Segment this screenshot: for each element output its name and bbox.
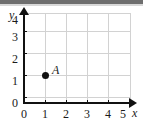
gridline-horizontal [24, 75, 131, 76]
y-axis-tick [23, 97, 27, 98]
plot-area [24, 13, 131, 103]
x-axis-title: x [132, 107, 137, 119]
x-tick-label-1: 1 [39, 108, 51, 120]
x-axis-tick [66, 100, 67, 104]
x-tick-label-5: 5 [117, 108, 129, 120]
y-tick-label-2: 2 [6, 53, 18, 65]
gridline-horizontal [24, 13, 131, 14]
x-axis-tick [24, 100, 25, 104]
y-axis-line [23, 12, 25, 104]
x-tick-label-2: 2 [60, 108, 72, 120]
data-point-a-label: A [52, 64, 59, 76]
data-point-a [42, 72, 49, 79]
y-tick-label-1: 1 [6, 75, 18, 87]
y-tick-label-3: 3 [6, 31, 18, 43]
gridline-vertical [108, 13, 109, 103]
gridline-vertical [87, 13, 88, 103]
x-axis-tick [45, 100, 46, 104]
y-axis-title: y [9, 9, 14, 21]
scan-header-shade [0, 4, 143, 6]
y-axis-tick [23, 75, 27, 76]
gridline-horizontal [24, 97, 131, 98]
gridline-horizontal [24, 31, 131, 32]
y-axis-arrow-icon [19, 7, 29, 15]
coordinate-plane-figure: 0 1 2 3 4 5 0 1 2 3 4 y x A [0, 0, 143, 126]
x-axis-tick [87, 100, 88, 104]
gridline-horizontal [24, 53, 131, 54]
x-tick-label-4: 4 [102, 108, 114, 120]
x-axis-tick [108, 100, 109, 104]
x-tick-label-0: 0 [18, 108, 30, 120]
x-tick-label-3: 3 [81, 108, 93, 120]
y-axis-tick [23, 31, 27, 32]
gridline-vertical [45, 13, 46, 103]
y-axis-tick [23, 53, 27, 54]
x-axis-line [24, 102, 130, 104]
gridline-vertical [66, 13, 67, 103]
y-tick-label-0: 0 [6, 97, 18, 109]
gridline-vertical [130, 13, 131, 103]
